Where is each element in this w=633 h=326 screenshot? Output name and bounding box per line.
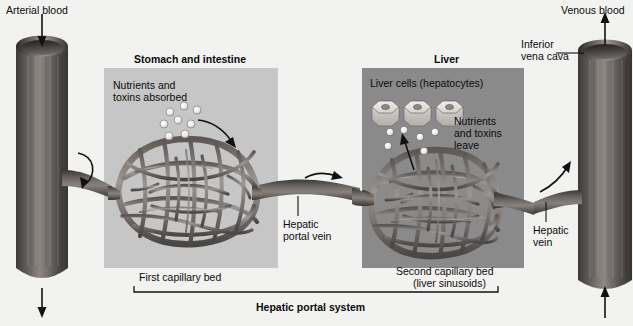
label-first-capillary-bed: First capillary bed — [139, 271, 221, 283]
label-nutrients-absorbed-line2: toxins absorbed — [113, 91, 187, 103]
label-arterial-blood: Arterial blood — [6, 4, 68, 16]
hepatocyte-cell — [404, 101, 431, 126]
label-liver: Liver — [434, 53, 459, 65]
hepatocyte-cell — [372, 101, 399, 126]
label-hepatic-portal-vein-line2: portal vein — [283, 230, 331, 242]
diagram-canvas: Arterial blood Venous blood Inferior ven… — [0, 0, 633, 326]
label-hepatic-portal-system: Hepatic portal system — [256, 301, 365, 313]
label-nutrients-leave-line2: and toxins — [454, 127, 502, 139]
label-stomach-and-intestine: Stomach and intestine — [134, 53, 246, 65]
label-hepatic-vein-line1: Hepatic — [533, 224, 569, 236]
label-hepatic-vein-line2: vein — [533, 236, 552, 248]
label-inferior-vena-cava-line2: vena cava — [521, 50, 569, 62]
label-liver-cells: Liver cells (hepatocytes) — [370, 77, 483, 89]
label-nutrients-leave-line1: Nutrients — [454, 115, 496, 127]
label-venous-blood: Venous blood — [561, 4, 625, 16]
hepatocyte-cells-group — [372, 101, 463, 126]
label-nutrients-absorbed-line1: Nutrients and — [113, 79, 175, 91]
label-second-capillary-bed-line1: Second capillary bed — [396, 265, 493, 277]
label-inferior-vena-cava-line1: Inferior — [521, 38, 554, 50]
label-hepatic-portal-vein-line1: Hepatic — [283, 218, 319, 230]
label-nutrients-leave-line3: leave — [454, 139, 479, 151]
label-second-capillary-bed-line2: (liver sinusoids) — [413, 277, 486, 289]
